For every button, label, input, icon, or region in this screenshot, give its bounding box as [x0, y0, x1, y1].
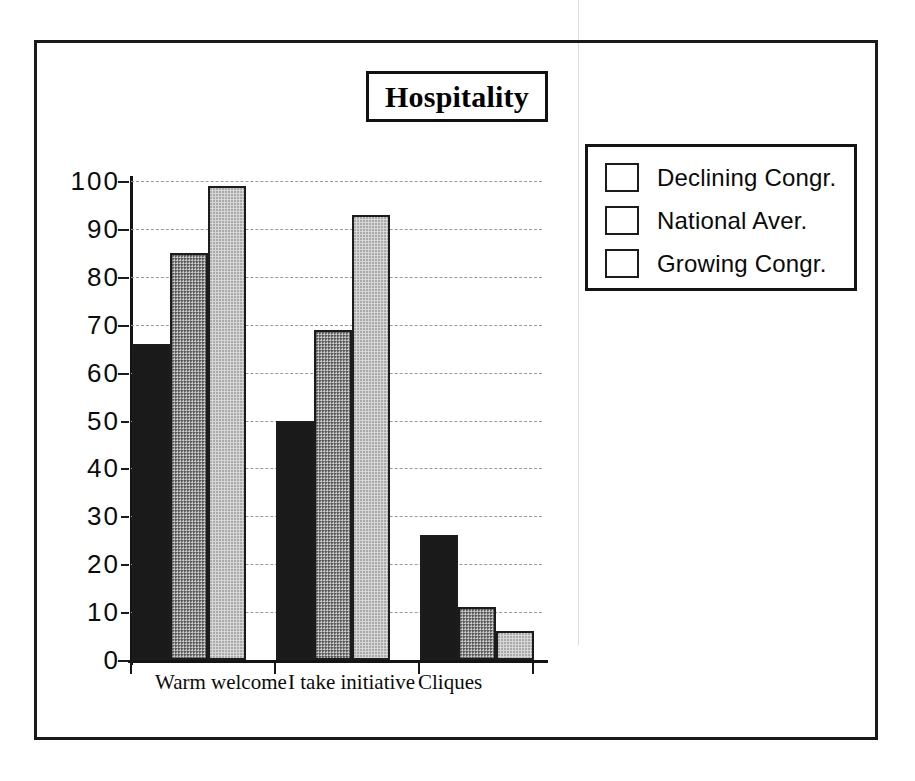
y-axis-tick — [118, 181, 129, 183]
legend-swatch-growing-congr — [605, 249, 639, 278]
bar-declining-congr-0 — [132, 344, 170, 660]
x-axis-category-label: Cliques — [418, 672, 482, 693]
y-axis-tick — [121, 564, 129, 566]
bar-growing-congr-2 — [496, 631, 534, 660]
y-axis-tick-label: 80 — [58, 264, 120, 290]
x-axis-category-label: Warm welcome — [155, 672, 287, 693]
scan-top-clipped-text — [150, 0, 790, 5]
y-axis-tick-label: 60 — [58, 360, 120, 386]
legend-swatch-declining-congr — [605, 163, 639, 192]
chart-legend: Declining Congr. National Aver. Growing … — [585, 144, 857, 291]
y-axis-tick — [118, 325, 129, 327]
y-axis-tick-label: 90 — [58, 216, 120, 242]
y-axis-tick — [118, 373, 129, 375]
plot-area — [131, 181, 542, 660]
y-axis-tick-label: 0 — [58, 647, 120, 673]
y-axis-tick-label: 70 — [58, 312, 120, 338]
bar-declining-congr-2 — [420, 535, 458, 660]
gridline — [131, 181, 542, 182]
y-axis-tick — [118, 229, 129, 231]
bar-declining-congr-1 — [276, 421, 314, 661]
y-axis-tick-label: 20 — [58, 551, 120, 577]
y-axis-tick — [121, 421, 129, 423]
chart-title-box: Hospitality — [366, 71, 548, 122]
x-axis-tick — [532, 661, 534, 674]
legend-label-growing-congr: Growing Congr. — [657, 252, 827, 276]
list-item: Growing Congr. — [588, 242, 854, 285]
page-title: Hospitality — [385, 82, 529, 112]
y-axis-tick — [118, 660, 129, 662]
y-axis-tick — [121, 468, 129, 470]
list-item: National Aver. — [588, 199, 854, 242]
legend-label-declining-congr: Declining Congr. — [657, 166, 836, 190]
y-axis-tick — [121, 516, 129, 518]
y-axis-tick — [121, 612, 129, 614]
y-axis-tick — [118, 277, 129, 279]
legend-label-national-aver: National Aver. — [657, 209, 807, 233]
y-axis-tick-label: 100 — [58, 168, 120, 194]
x-axis-tick — [274, 661, 276, 674]
x-axis-tick — [130, 661, 132, 674]
x-axis-line — [128, 660, 548, 663]
bar-national-aver-0 — [170, 253, 208, 660]
y-axis-tick-labels: 1009080706050403020100 — [48, 181, 120, 660]
legend-swatch-national-aver — [605, 206, 639, 235]
y-axis-tick-label: 50 — [58, 408, 120, 434]
gridline — [131, 229, 542, 230]
bar-growing-congr-1 — [352, 215, 390, 660]
y-axis-tick-label: 30 — [58, 503, 120, 529]
y-axis-tick-label: 40 — [58, 455, 120, 481]
y-axis-tick-label: 10 — [58, 599, 120, 625]
bar-national-aver-2 — [458, 607, 496, 660]
x-axis-category-label: I take initiative — [288, 672, 415, 693]
list-item: Declining Congr. — [588, 156, 854, 199]
bar-national-aver-1 — [314, 330, 352, 661]
bar-growing-congr-0 — [208, 186, 246, 660]
